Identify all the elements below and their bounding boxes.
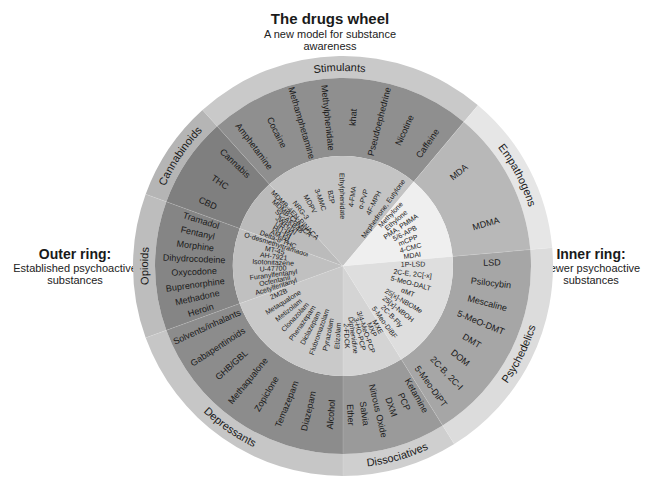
opioids-outer-drug-label: Oxycodone [171,266,217,278]
psychedelics-outer-drug-label: LSD [483,257,501,267]
dissociatives-outer-drug-label: Ether [345,404,356,426]
opioids-category-label: Opioids [138,246,151,285]
drugs-wheel: StimulantsAmphetamineCocaineMethamphetam… [0,0,661,490]
stimulants-outer-drug-label: khat [347,108,358,126]
psychedelics-inner-drug-label: 1P-LSD [401,260,426,267]
dissociatives-inner-drug-label: 2-FDCK [343,323,351,349]
